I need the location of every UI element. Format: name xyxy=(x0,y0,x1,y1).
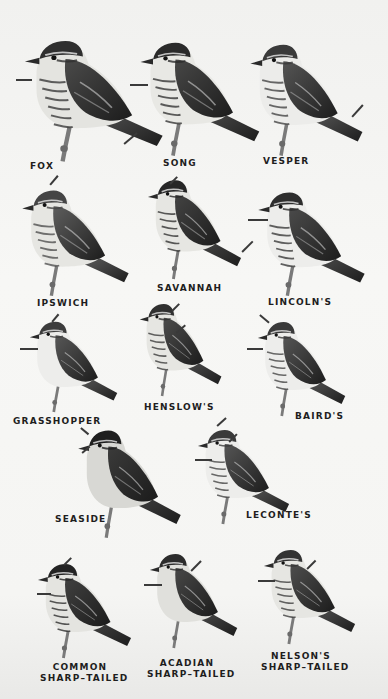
sparrow-icon xyxy=(256,188,368,298)
label-acadian-sharp-tailed: ACADIAN SHARP–TAILED xyxy=(147,658,227,680)
pointer-line xyxy=(258,580,275,582)
bird-illustration-common-sharp-tailed xyxy=(36,560,134,660)
bird-illustration-bairds xyxy=(256,318,348,418)
label-lincolns: LINCOLN'S xyxy=(268,297,332,308)
label-line: SHARP–TAILED xyxy=(261,662,341,673)
sparrow-icon xyxy=(146,176,244,281)
sparrow-icon xyxy=(28,318,120,414)
label-fox: FOX xyxy=(30,161,54,172)
label-common-sharp-tailed: COMMON SHARP–TAILED xyxy=(40,662,120,684)
pointer-line xyxy=(195,459,212,461)
label-song: SONG xyxy=(163,158,197,169)
sparrow-icon xyxy=(138,38,263,158)
pointer-line xyxy=(144,584,162,586)
label-line: SHARP–TAILED xyxy=(147,669,227,680)
bird-illustration-nelsons-sharp-tailed xyxy=(262,546,358,646)
label-lecontes: LECONTE'S xyxy=(246,510,312,521)
label-ipswich: IPSWICH xyxy=(37,298,89,309)
pointer-line xyxy=(130,84,148,86)
bird-illustration-lincolns xyxy=(256,188,368,298)
label-henslows: HENSLOW'S xyxy=(144,402,215,413)
pointer-line xyxy=(248,219,268,221)
label-seaside: SEASIDE xyxy=(55,514,106,525)
label-line: NELSON'S xyxy=(261,651,341,662)
bird-illustration-henslows xyxy=(138,300,224,398)
bird-illustration-grasshopper xyxy=(28,318,120,414)
sparrow-icon xyxy=(256,318,348,418)
label-bairds: BAIRD'S xyxy=(295,411,344,422)
pointer-line xyxy=(20,348,38,350)
bird-illustration-ipswich xyxy=(20,186,132,298)
bird-illustration-vesper xyxy=(248,40,366,158)
label-savannah: SAVANNAH xyxy=(157,283,222,294)
label-vesper: VESPER xyxy=(263,156,309,167)
pointer-line xyxy=(37,593,51,595)
label-line: COMMON xyxy=(40,662,120,673)
pointer-line xyxy=(247,348,263,350)
sparrow-icon xyxy=(262,546,358,646)
sparrow-identification-plate: FOX SONG VESPER IPSWICH SAVANNAH LINCOLN… xyxy=(0,0,388,699)
label-nelsons-sharp-tailed: NELSON'S SHARP–TAILED xyxy=(261,651,341,673)
sparrow-icon xyxy=(20,186,132,298)
bird-illustration-savannah xyxy=(146,176,244,281)
label-grasshopper: GRASSHOPPER xyxy=(13,416,102,427)
pointer-line xyxy=(16,79,32,81)
pointer-line xyxy=(49,175,58,185)
pointer-line xyxy=(216,417,226,426)
label-line: SHARP–TAILED xyxy=(40,673,120,684)
sparrow-icon xyxy=(138,300,224,398)
sparrow-icon xyxy=(248,40,366,158)
bird-illustration-song xyxy=(138,38,263,158)
label-line: ACADIAN xyxy=(147,658,227,669)
sparrow-icon xyxy=(36,560,134,660)
